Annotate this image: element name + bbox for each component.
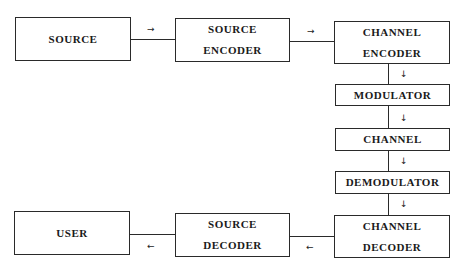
modulator-block: MODULATOR [335,84,450,106]
connector-demodulator-to-channel-decoder [388,194,389,215]
arrow-down-icon: ↓ [400,199,408,209]
connector-modulator-to-channel [388,106,389,128]
source-encoder-block: SOURCE ENCODER [175,18,290,62]
channel-decoder-label-2: DECODER [363,237,422,258]
source-decoder-block: SOURCE DECODER [175,213,290,257]
source-block: SOURCE [15,17,131,61]
arrow-right-icon: → [147,24,155,34]
source-decoder-label-2: DECODER [203,235,262,256]
channel-decoder-block: CHANNEL DECODER [334,215,450,258]
connector-source-decoder-to-user [130,234,175,235]
connector-channel-encoder-to-modulator [388,64,389,84]
source-decoder-label-1: SOURCE [208,214,257,235]
source-label: SOURCE [49,29,98,50]
channel-block: CHANNEL [335,128,450,151]
connector-encoder-to-channel-encoder [290,41,334,42]
modulator-label: MODULATOR [354,85,431,106]
arrow-right-icon: → [307,26,315,36]
arrow-left-icon: ← [306,242,314,252]
user-block: USER [14,211,130,255]
source-encoder-label-2: ENCODER [203,40,262,61]
arrow-left-icon: ← [147,241,155,251]
connector-source-to-encoder [131,39,175,40]
channel-encoder-label-2: ENCODER [363,43,422,64]
arrow-down-icon: ↓ [400,69,408,79]
connector-channel-to-demodulator [388,151,389,171]
source-encoder-label-1: SOURCE [208,19,257,40]
demodulator-label: DEMODULATOR [346,172,440,193]
channel-decoder-label-1: CHANNEL [363,216,422,237]
channel-encoder-block: CHANNEL ENCODER [334,21,450,64]
demodulator-block: DEMODULATOR [335,171,450,194]
user-label: USER [56,223,87,244]
channel-encoder-label-1: CHANNEL [363,22,422,43]
arrow-down-icon: ↓ [400,156,408,166]
arrow-down-icon: ↓ [400,113,408,123]
channel-label: CHANNEL [363,129,422,150]
connector-channel-decoder-to-source-decoder [290,236,334,237]
